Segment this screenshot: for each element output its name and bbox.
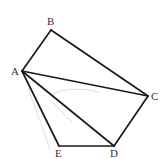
label-a: A bbox=[11, 65, 19, 77]
segment-cd bbox=[114, 96, 148, 146]
segment-ab bbox=[22, 30, 51, 71]
label-e: E bbox=[55, 147, 62, 159]
label-b: B bbox=[47, 15, 54, 27]
sketch-mark bbox=[50, 89, 100, 95]
segment-ea bbox=[22, 71, 59, 146]
sketch-mark bbox=[28, 88, 50, 150]
pentagon-diagram: A B C D E bbox=[0, 0, 167, 159]
label-c: C bbox=[151, 90, 158, 102]
label-d: D bbox=[110, 147, 118, 159]
